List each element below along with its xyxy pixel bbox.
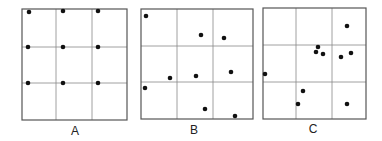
data-point — [229, 70, 234, 75]
data-point — [339, 55, 344, 60]
data-point — [349, 51, 354, 56]
data-point — [263, 72, 268, 77]
panel-c-label: C — [309, 122, 318, 136]
data-point — [345, 24, 350, 29]
panel-border — [22, 9, 127, 120]
data-point — [301, 89, 306, 94]
data-point — [26, 45, 31, 50]
data-point — [203, 107, 208, 112]
data-point — [143, 86, 148, 91]
data-point — [96, 81, 101, 86]
data-point — [27, 10, 32, 15]
data-point — [233, 114, 238, 119]
panel-b-label: B — [190, 123, 198, 137]
panel-b — [141, 9, 253, 119]
data-point — [194, 74, 199, 79]
data-point — [61, 45, 66, 50]
data-point — [61, 81, 66, 86]
panel-border — [263, 8, 366, 119]
panel-a-label: A — [71, 124, 79, 138]
data-point — [168, 76, 173, 81]
data-point — [61, 9, 66, 14]
panel-a — [22, 9, 127, 120]
data-point — [345, 102, 350, 107]
data-point — [144, 14, 149, 19]
data-point — [296, 102, 301, 107]
data-point — [96, 45, 101, 50]
dot-distribution-diagram — [0, 0, 382, 141]
panel-border — [141, 9, 253, 119]
data-point — [316, 45, 321, 50]
data-point — [26, 81, 31, 86]
panel-c — [263, 8, 366, 119]
data-point — [96, 9, 101, 14]
data-point — [199, 33, 204, 38]
data-point — [314, 50, 319, 55]
data-point — [222, 36, 227, 41]
data-point — [321, 52, 326, 57]
